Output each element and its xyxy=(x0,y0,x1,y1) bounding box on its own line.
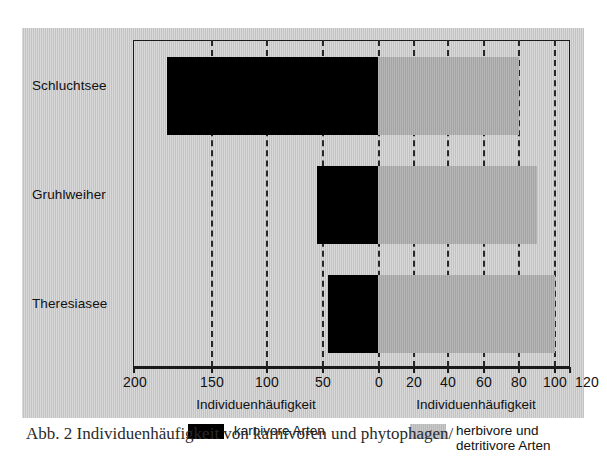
bar-carnivore-theresiasee xyxy=(328,275,378,353)
tick-label-150: 150 xyxy=(200,374,224,390)
bar-row-theresiasee xyxy=(133,275,570,353)
tick-label-r120: 120 xyxy=(575,374,599,390)
category-label-gruhlweiher: Gruhlweiher xyxy=(32,187,128,202)
tick-label-r60: 60 xyxy=(476,374,492,390)
tick-label-200: 200 xyxy=(123,374,147,390)
bar-carnivore-schluchtsee xyxy=(167,57,378,135)
tick-r40 xyxy=(447,367,449,373)
tick-r20 xyxy=(413,367,415,373)
chart-plate: Schluchtsee Gruhlweiher Theresiasee 200 … xyxy=(22,28,584,418)
bar-herbivore-theresiasee xyxy=(378,275,555,353)
tick-label-0: 0 xyxy=(375,374,383,390)
tick-200 xyxy=(133,367,135,373)
tick-label-r100: 100 xyxy=(543,374,567,390)
bar-row-gruhlweiher xyxy=(133,166,570,244)
tick-50 xyxy=(322,367,324,373)
bar-row-schluchtsee xyxy=(133,57,570,135)
tick-r120 xyxy=(569,367,571,373)
bar-herbivore-gruhlweiher xyxy=(378,166,537,244)
figure-caption: Abb. 2 Individuenhäufigkeit von karnivor… xyxy=(26,424,586,450)
tick-label-r40: 40 xyxy=(440,374,456,390)
tick-150 xyxy=(211,367,213,373)
tick-0 xyxy=(378,367,380,373)
category-label-theresiasee: Theresiasee xyxy=(32,296,128,311)
tick-label-100: 100 xyxy=(255,374,279,390)
tick-100 xyxy=(266,367,268,373)
x-axis-line xyxy=(133,367,570,369)
tick-r100 xyxy=(554,367,556,373)
bar-carnivore-gruhlweiher xyxy=(317,166,378,244)
axis-title-left: Individuenhäufigkeit xyxy=(196,397,315,412)
tick-r80 xyxy=(518,367,520,373)
axis-title-right: Individuenhäufigkeit xyxy=(416,397,535,412)
figure-page: Schluchtsee Gruhlweiher Theresiasee 200 … xyxy=(0,0,607,463)
tick-label-50: 50 xyxy=(315,374,331,390)
tick-label-r80: 80 xyxy=(511,374,527,390)
tick-r60 xyxy=(483,367,485,373)
plot-area xyxy=(133,40,570,367)
category-label-schluchtsee: Schluchtsee xyxy=(32,78,128,93)
bar-herbivore-schluchtsee xyxy=(378,57,519,135)
tick-label-r20: 20 xyxy=(406,374,422,390)
